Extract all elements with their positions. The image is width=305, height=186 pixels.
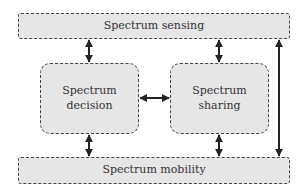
arrows-layer — [0, 0, 305, 186]
